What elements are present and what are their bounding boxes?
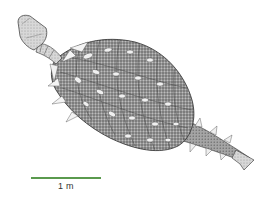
scale-bar: [31, 177, 101, 179]
dinosaur-illustration: [0, 0, 271, 199]
armored-dinosaur-drawing: [0, 0, 271, 199]
scale-label: 1 m: [58, 181, 74, 191]
